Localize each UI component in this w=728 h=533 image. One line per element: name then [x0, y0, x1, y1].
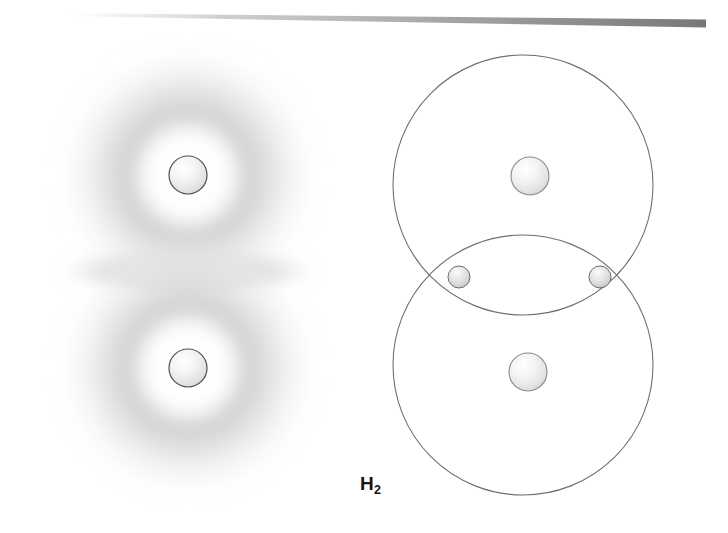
cloud-upper-nucleus — [169, 156, 207, 194]
left-shared-electron — [448, 266, 470, 288]
electron-cloud-panel — [57, 44, 319, 499]
right-shared-electron — [589, 266, 611, 288]
molecule-formula-label: H2 — [360, 474, 381, 496]
orbital-shell-panel — [393, 55, 653, 495]
figure-root: H2 — [0, 0, 728, 533]
shell-lower-nucleus — [509, 353, 547, 391]
formula-element-symbol: H — [360, 473, 374, 494]
top-gradient-rule — [60, 13, 706, 28]
cloud-lower-nucleus — [169, 349, 207, 387]
shell-upper-nucleus — [511, 157, 549, 195]
formula-subscript: 2 — [374, 483, 381, 497]
h2-molecule-figure — [0, 0, 728, 533]
